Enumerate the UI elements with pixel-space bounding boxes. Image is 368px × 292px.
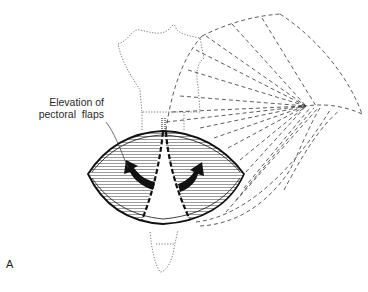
callout-line-1: Elevation of xyxy=(22,96,104,108)
callout-label: Elevation of pectoral flaps xyxy=(22,96,104,120)
right-flap xyxy=(163,130,250,230)
panel-letter: A xyxy=(6,258,13,270)
left-flap xyxy=(80,130,163,230)
flaps xyxy=(80,130,250,230)
callout-line-2: pectoral flaps xyxy=(22,108,104,120)
surgical-diagram xyxy=(0,0,368,292)
